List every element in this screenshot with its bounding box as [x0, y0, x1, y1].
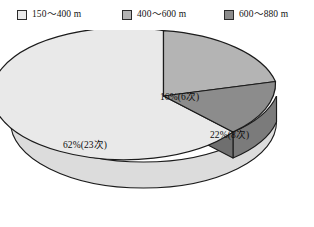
legend-label-150-400: 150～400 m	[32, 9, 81, 20]
pie-svg	[0, 30, 314, 227]
legend-swatch-400-600	[122, 10, 132, 20]
legend-swatch-600-880	[224, 10, 234, 20]
legend-swatch-150-400	[17, 10, 27, 20]
legend-item-400-600: 400～600 m	[122, 9, 186, 20]
pie-body: 16%(6次) 22%(8次) 62%(23次)	[0, 30, 314, 227]
data-label-150-400: 62%(23次)	[63, 140, 107, 151]
data-label-600-880: 22%(8次)	[210, 130, 249, 141]
chart-legend: 150～400 m 400～600 m 600～880 m	[0, 9, 314, 29]
legend-item-150-400: 150～400 m	[17, 9, 81, 20]
legend-item-600-880: 600～880 m	[224, 9, 288, 20]
data-label-400-600: 16%(6次)	[160, 92, 199, 103]
legend-label-600-880: 600～880 m	[239, 9, 288, 20]
pie-chart-figure: 150～400 m 400～600 m 600～880 m	[0, 0, 314, 227]
legend-label-400-600: 400～600 m	[137, 9, 186, 20]
